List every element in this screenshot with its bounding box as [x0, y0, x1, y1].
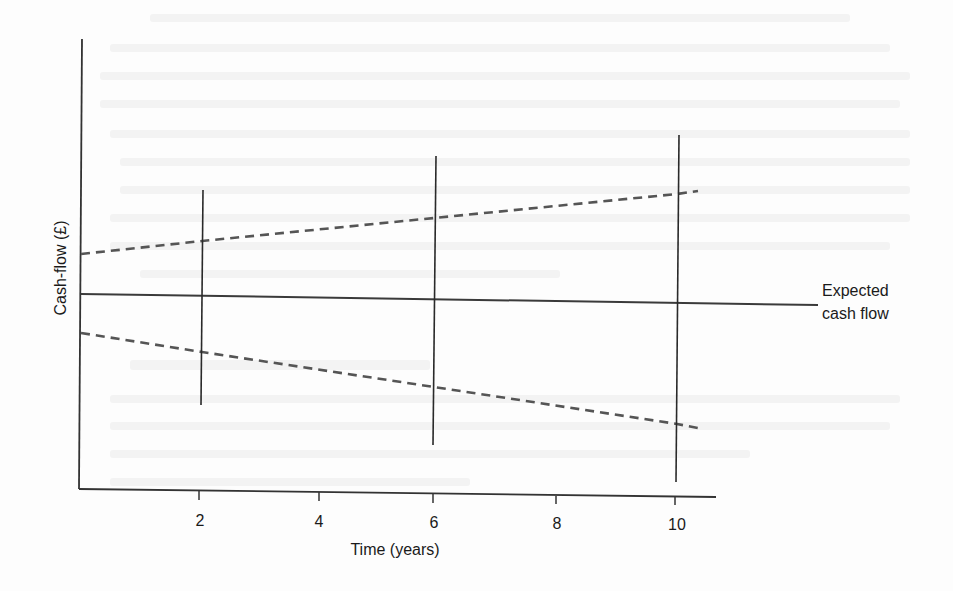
range-line-year-6: [433, 156, 436, 445]
expected-cash-flow-line: [81, 294, 818, 305]
range-line-year-2: [201, 190, 203, 405]
expected-cash-flow-label-line1: Expected: [822, 282, 889, 299]
y-axis: [79, 39, 82, 489]
x-tick-label-8: 8: [553, 515, 562, 532]
x-axis: [79, 489, 716, 497]
x-tick-label-10: 10: [668, 516, 686, 533]
range-line-year-10: [676, 135, 679, 482]
y-axis-label: Cash-flow (£): [52, 220, 69, 315]
x-tick-label-2: 2: [196, 512, 205, 529]
x-tick-label-6: 6: [430, 514, 439, 531]
cash-flow-risk-chart: 2 4 6 8 10 Time (years) Cash-flow (£) Ex…: [0, 0, 953, 591]
scanned-page: 2 4 6 8 10 Time (years) Cash-flow (£) Ex…: [0, 0, 953, 591]
x-tick-label-4: 4: [315, 513, 324, 530]
lower-bound-dashed-line: [81, 333, 698, 428]
expected-cash-flow-label-line2: cash flow: [822, 305, 889, 322]
upper-bound-dashed-line: [81, 191, 698, 254]
vertical-range-lines: [201, 135, 679, 482]
x-axis-label: Time (years): [350, 541, 439, 558]
